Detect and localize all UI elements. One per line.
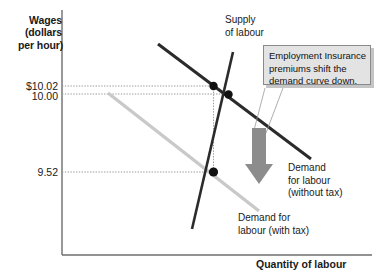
x-axis-title: Quantity of labour [256,258,346,270]
y-tick-label-952: 9.52 [12,166,58,178]
figure-canvas: Wages (dollars per hour) Quantity of lab… [0,0,392,277]
y-axis-title: Wages (dollars per hour) [18,14,62,51]
shift-callout-box: Employment Insurance premiums shift the … [263,45,371,85]
callout-leader-left [253,88,265,134]
demand-curve-with-tax [108,93,259,211]
shift-callout-text: Employment Insurance premiums shift the … [269,50,369,88]
downward-shift-arrow [245,128,273,184]
point-wage-received-by-workers [209,167,218,176]
point-pretax-equilibrium [224,90,232,98]
callout-leader-right [266,88,283,133]
y-tick-label-1000: 10.00 [12,90,58,102]
supply-curve-label: Supply of labour [225,14,264,39]
demand-without-tax-label: Demand for labour (without tax) [288,162,342,200]
supply-curve [192,52,233,229]
point-wage-paid-by-firms [209,82,217,90]
demand-with-tax-label: Demand for labour (with tax) [238,212,309,237]
